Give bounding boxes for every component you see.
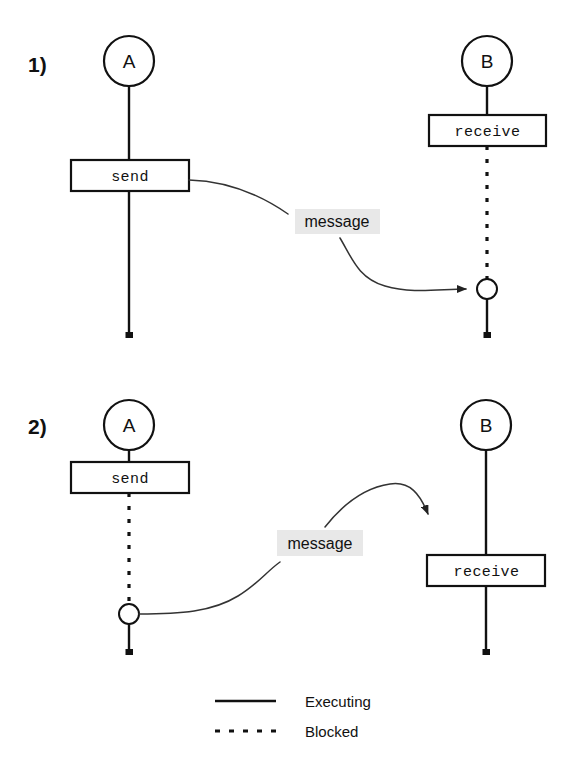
panel-1-process-a: A send <box>71 36 189 338</box>
legend-item-blocked: Blocked <box>215 723 358 740</box>
message-curve-segment-1 <box>189 180 288 214</box>
message-label: message <box>288 535 353 552</box>
panel-2-index-label: 2) <box>28 415 47 438</box>
process-a-label: A <box>123 51 136 72</box>
diagram-root: 1) A send B receive <box>0 0 572 766</box>
legend-label-executing: Executing <box>305 693 371 710</box>
panel-1-process-b: B receive <box>429 36 546 338</box>
panel-1-message: message <box>189 180 466 291</box>
process-b-label: B <box>481 51 494 72</box>
panel-2-process-b: B receive <box>427 400 545 655</box>
process-b-lifeline-end-dot <box>483 649 491 655</box>
process-b-receive-label: receive <box>454 564 520 581</box>
message-curve-segment-2-with-arrowhead <box>340 238 466 291</box>
process-a-label: A <box>123 415 136 436</box>
legend-label-blocked: Blocked <box>305 723 358 740</box>
panel-2: 2) A send B receive <box>28 400 545 655</box>
legend-item-executing: Executing <box>215 693 371 710</box>
legend: Executing Blocked <box>215 693 371 740</box>
panel-2-message: message <box>139 484 428 614</box>
message-curve-segment-2-with-arrowhead <box>325 484 428 527</box>
process-a-lifeline-end-dot <box>126 332 134 338</box>
panel-2-process-a: A send <box>71 400 189 655</box>
process-a-send-label: send <box>111 169 149 186</box>
process-a-send-label: send <box>111 471 149 488</box>
message-label: message <box>305 213 370 230</box>
message-curve-segment-1 <box>139 562 280 614</box>
process-b-lifeline-end-dot <box>484 332 492 338</box>
process-b-label: B <box>480 415 493 436</box>
process-b-receive-label: receive <box>455 124 521 141</box>
process-a-lifeline-end-dot <box>126 649 134 655</box>
process-a-unblock-circle <box>119 604 139 624</box>
process-b-unblock-circle <box>477 279 497 299</box>
panel-1: 1) A send B receive <box>28 36 546 338</box>
message-passing-diagram: 1) A send B receive <box>0 0 572 766</box>
panel-1-index-label: 1) <box>28 53 47 76</box>
